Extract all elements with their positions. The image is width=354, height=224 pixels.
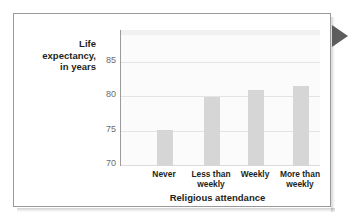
x-axis-title: Religious attendance xyxy=(110,192,325,203)
y-axis-title: Life expectancy, in years xyxy=(16,38,96,73)
category-label-more-than-weekly-line-1: More than xyxy=(270,169,330,179)
bar-less-than-weekly xyxy=(204,97,220,166)
category-label-more-than-weekly-line-2: weekly xyxy=(270,179,330,189)
bar-series xyxy=(121,30,320,166)
category-label-less-than-weekly-line-2: weekly xyxy=(181,179,241,189)
y-axis-title-line-2: expectancy, xyxy=(16,50,96,62)
plot-area xyxy=(120,30,320,166)
bar-never xyxy=(157,130,173,166)
y-tick-label-75: 75 xyxy=(106,125,116,134)
category-label-more-than-weekly: More than weekly xyxy=(270,169,330,189)
y-tick-label-70: 70 xyxy=(106,159,116,168)
y-tick-label-80: 80 xyxy=(106,90,116,99)
bar-more-than-weekly xyxy=(293,86,309,166)
panel-shadow-bottom xyxy=(17,208,335,212)
figure-panel: Life expectancy, in years 85 80 75 70 xyxy=(13,13,331,207)
right-pointer-triangle-icon xyxy=(332,25,348,47)
bar-weekly xyxy=(248,90,264,166)
y-tick-label-85: 85 xyxy=(106,56,116,65)
y-axis-title-line-1: Life xyxy=(16,38,96,50)
y-axis-tick-labels: 85 80 75 70 xyxy=(96,28,116,168)
y-axis-title-line-3: in years xyxy=(16,61,96,73)
bar-chart: Life expectancy, in years 85 80 75 70 xyxy=(14,14,332,206)
x-axis-category-labels: Never Less than weekly Weekly More than … xyxy=(120,169,320,193)
